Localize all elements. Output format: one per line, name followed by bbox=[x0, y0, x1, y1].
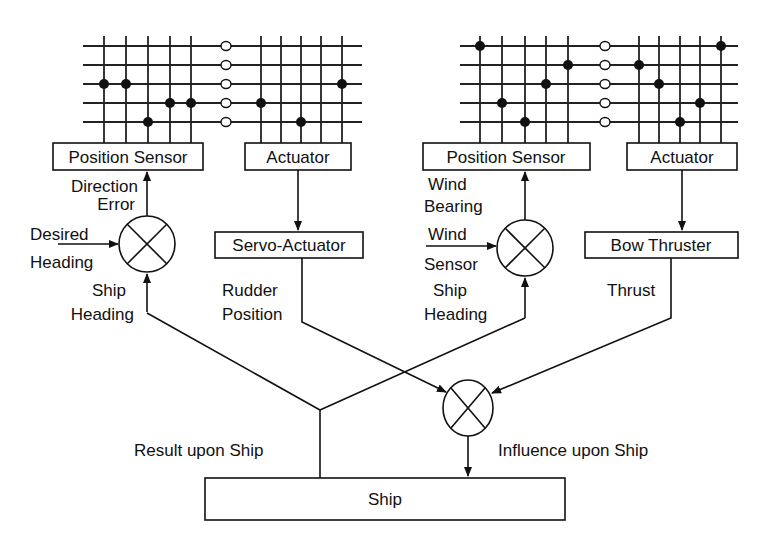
result-feedback-right-line bbox=[320, 318, 525, 410]
wind-bearing-label-1: Wind bbox=[428, 175, 467, 194]
ship-heading-right-label-1: Ship bbox=[433, 281, 467, 300]
desired-heading-label-2: Heading bbox=[30, 253, 93, 272]
ship-box: Ship bbox=[205, 478, 565, 520]
rudder-position-line bbox=[302, 258, 446, 392]
direction-error-label-2: Error bbox=[97, 195, 135, 214]
right-position-sensor-label: Position Sensor bbox=[446, 148, 565, 167]
influence-upon-ship-label: Influence upon Ship bbox=[498, 441, 648, 460]
rudder-position-label-2: Position bbox=[222, 305, 282, 324]
rudder-position-label-1: Rudder bbox=[222, 281, 278, 300]
ship-heading-right-label-2: Heading bbox=[424, 305, 487, 324]
left-position-sensor-box: Position Sensor bbox=[53, 143, 203, 170]
bow-thruster-box: Bow Thruster bbox=[585, 232, 738, 258]
left-actuator-box: Actuator bbox=[245, 143, 351, 170]
right-crossbar-grid bbox=[460, 36, 738, 143]
left-crossbar-grid bbox=[83, 36, 362, 143]
right-position-sensor-box: Position Sensor bbox=[423, 143, 590, 170]
thrust-label: Thrust bbox=[607, 281, 655, 300]
wind-bearing-label-2: Bearing bbox=[424, 197, 483, 216]
bottom-comparator-icon bbox=[443, 380, 493, 436]
direction-error-label-1: Direction bbox=[71, 177, 138, 196]
ship-heading-left-label-2: Heading bbox=[71, 305, 134, 324]
open-nodes bbox=[221, 42, 231, 127]
wind-sensor-label-2: Sensor bbox=[424, 255, 478, 274]
right-actuator-box: Actuator bbox=[627, 143, 737, 170]
bow-thruster-label: Bow Thruster bbox=[611, 236, 712, 255]
ship-control-diagram: Position Sensor Actuator Servo-Actuator … bbox=[0, 0, 772, 542]
right-actuator-label: Actuator bbox=[650, 148, 714, 167]
servo-actuator-box: Servo-Actuator bbox=[215, 232, 363, 258]
desired-heading-label-1: Desired bbox=[30, 225, 89, 244]
left-position-sensor-label: Position Sensor bbox=[68, 148, 187, 167]
left-comparator-icon bbox=[119, 216, 175, 272]
right-comparator-icon bbox=[497, 220, 553, 276]
open-nodes bbox=[600, 42, 610, 127]
result-upon-ship-label: Result upon Ship bbox=[134, 441, 263, 460]
thrust-line bbox=[492, 258, 671, 393]
ship-label: Ship bbox=[368, 490, 402, 509]
servo-actuator-label: Servo-Actuator bbox=[232, 236, 346, 255]
wind-sensor-label-1: Wind bbox=[428, 225, 467, 244]
ship-heading-left-label-1: Ship bbox=[92, 281, 126, 300]
left-actuator-label: Actuator bbox=[266, 148, 330, 167]
